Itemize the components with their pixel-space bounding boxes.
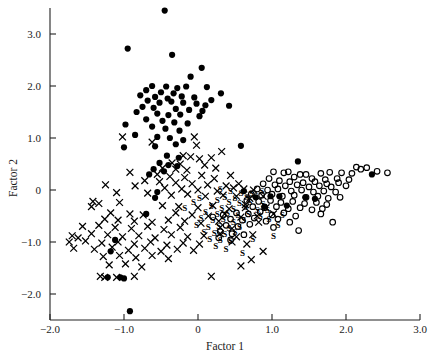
data-point-filled-circle <box>193 101 199 107</box>
y-tick-label: 0 <box>36 184 42 196</box>
data-point-x <box>181 174 188 181</box>
data-point-open-circle <box>266 176 272 182</box>
data-point-x <box>88 203 95 210</box>
data-point-x <box>172 209 179 216</box>
data-point-filled-circle <box>188 74 194 80</box>
data-point-filled-circle <box>152 195 158 201</box>
data-point-open-circle <box>385 170 391 176</box>
data-point-open-circle <box>300 180 306 186</box>
plot-canvas: SSSSSSSSSSSSSSSSSSSSSSSSSSSSSSSSSSSSSSSS… <box>0 0 442 359</box>
data-point-x <box>208 154 215 161</box>
data-point-filled-circle <box>186 107 192 113</box>
data-point-x <box>147 239 154 246</box>
data-point-filled-circle <box>167 135 173 141</box>
x-tick-label: 3.0 <box>413 323 427 335</box>
data-point-x <box>144 190 151 197</box>
data-point-filled-circle <box>204 84 210 90</box>
data-point-s: S <box>194 220 199 230</box>
y-tick-label: −1.0 <box>21 236 41 248</box>
data-point-filled-circle <box>149 123 155 129</box>
data-point-open-circle <box>333 189 339 195</box>
data-point-filled-circle <box>156 100 162 106</box>
data-point-s: S <box>224 244 229 254</box>
data-point-filled-circle <box>226 103 232 109</box>
data-point-filled-circle <box>132 132 138 138</box>
data-point-x <box>159 202 166 209</box>
scatter-plot-figure: SSSSSSSSSSSSSSSSSSSSSSSSSSSSSSSSSSSSSSSS… <box>0 0 442 359</box>
x-tick-label: −1.0 <box>114 323 134 335</box>
data-point-x <box>211 175 218 182</box>
data-point-x <box>181 218 188 225</box>
data-point-open-circle <box>364 165 370 171</box>
data-point-x <box>168 192 175 199</box>
data-point-x <box>190 247 197 254</box>
data-point-x <box>149 252 156 259</box>
data-point-x <box>189 212 196 219</box>
data-point-filled-circle <box>170 90 176 96</box>
data-point-filled-circle <box>177 112 183 118</box>
data-point-open-circle <box>290 199 296 205</box>
data-point-filled-circle <box>191 94 197 100</box>
data-point-filled-circle <box>163 83 169 89</box>
data-point-x <box>218 148 225 155</box>
series-filled-circle <box>105 7 375 314</box>
data-point-x <box>82 238 89 245</box>
data-point-open-circle <box>294 182 300 188</box>
data-point-open-circle <box>328 184 334 190</box>
data-point-x <box>122 260 129 267</box>
data-point-open-circle <box>327 170 333 176</box>
data-point-filled-circle <box>133 109 139 115</box>
data-point-open-circle <box>297 172 303 178</box>
data-point-x <box>198 172 205 179</box>
data-point-s: S <box>209 201 214 211</box>
data-point-x <box>161 185 168 192</box>
data-point-x <box>184 191 191 198</box>
data-point-filled-circle <box>180 137 186 143</box>
data-point-open-circle <box>321 188 327 194</box>
data-point-x <box>101 216 108 223</box>
data-point-open-circle <box>330 219 336 225</box>
data-point-open-circle <box>296 228 302 234</box>
data-point-x <box>141 245 148 252</box>
data-point-filled-circle <box>125 45 131 51</box>
data-point-x <box>175 203 182 210</box>
data-point-x <box>161 226 168 233</box>
data-point-filled-circle <box>149 83 155 89</box>
data-point-x <box>248 256 255 263</box>
data-point-x <box>201 162 208 169</box>
data-point-x <box>135 232 142 239</box>
y-tick-label: 1.0 <box>27 132 41 144</box>
data-point-s: S <box>191 197 196 207</box>
data-point-filled-circle <box>173 141 179 147</box>
data-point-filled-circle <box>185 120 191 126</box>
data-point-open-circle <box>317 183 323 189</box>
data-point-filled-circle <box>169 52 175 58</box>
data-point-s: S <box>207 234 212 244</box>
data-point-x <box>115 217 122 224</box>
data-point-filled-circle <box>143 87 149 93</box>
data-point-x <box>104 231 111 238</box>
data-point-filled-circle <box>164 153 170 159</box>
axes-layer: −2.0−1.001.02.03.0 3.02.01.00−1.0−2.0 <box>21 8 427 335</box>
data-point-x <box>132 182 139 189</box>
data-point-x <box>165 255 172 262</box>
data-point-open-circle <box>346 177 352 183</box>
data-point-s: S <box>197 193 202 203</box>
data-point-s: S <box>219 203 224 213</box>
data-point-x <box>127 169 134 176</box>
data-point-x <box>164 242 171 249</box>
data-point-open-circle <box>299 187 305 193</box>
data-point-open-circle <box>337 194 343 200</box>
x-tick-label: 0 <box>195 323 201 335</box>
data-point-open-circle <box>247 222 253 228</box>
data-point-x <box>128 225 135 232</box>
data-point-filled-circle <box>146 171 152 177</box>
data-point-x <box>116 252 123 259</box>
data-point-x <box>154 171 161 178</box>
data-point-filled-circle <box>162 7 168 13</box>
data-point-open-circle <box>274 204 280 210</box>
y-tick-label: −2.0 <box>21 288 41 300</box>
x-axis-ticks: −2.0−1.001.02.03.0 <box>40 314 427 335</box>
data-point-x <box>95 200 102 207</box>
x-axis-title: Factor 1 <box>206 340 244 352</box>
